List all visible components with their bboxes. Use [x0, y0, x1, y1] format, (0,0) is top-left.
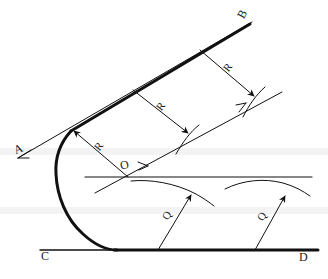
arc-r2-target: [176, 125, 199, 154]
geometry-figure: [0, 0, 328, 279]
offset-tangent-line: [95, 92, 282, 193]
arc-lower-right: [225, 180, 310, 196]
arc-r3-target: [243, 87, 265, 117]
radius-arrow-q2: [255, 196, 285, 250]
diagram-canvas: A B C D O R R R Q Q: [0, 0, 328, 279]
offset-tangent-tick-upper: [236, 103, 246, 112]
main-hook-curve: [56, 131, 117, 250]
radius-arrow-r3: [200, 50, 254, 96]
arc-lower-left: [131, 181, 214, 206]
line-ab-thick: [71, 24, 250, 131]
label-center-o: O: [119, 158, 130, 172]
radius-arrow-q1: [158, 195, 191, 250]
radius-arrow-r1: [74, 131, 128, 177]
label-point-d: D: [299, 251, 308, 263]
label-point-c: C: [41, 250, 49, 262]
